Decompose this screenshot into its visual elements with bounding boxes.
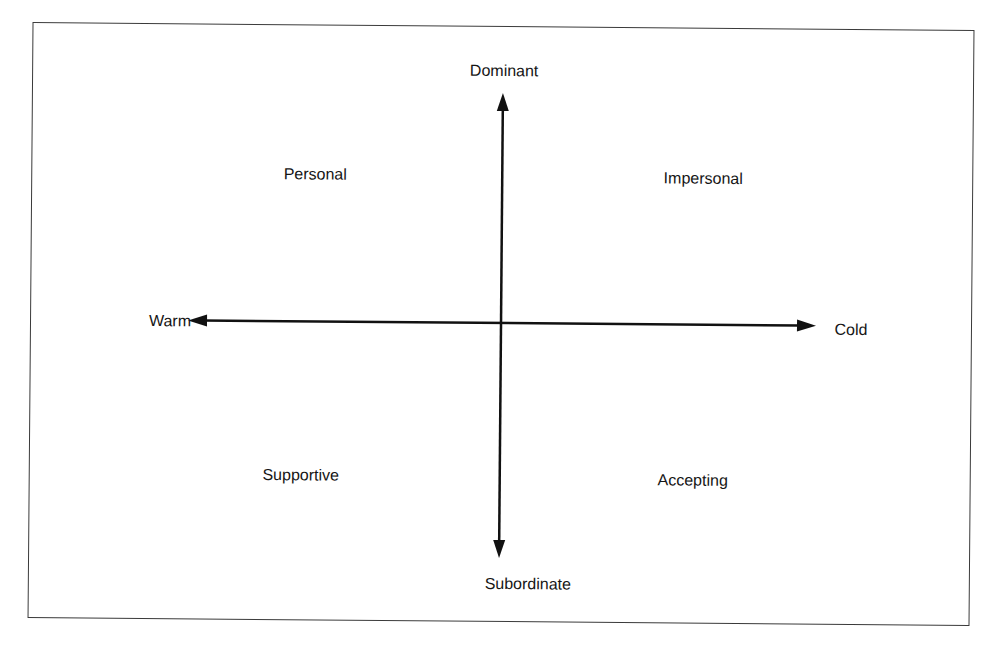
quadrant-label-supportive: Supportive [262,466,339,485]
quadrant-label-accepting: Accepting [657,471,727,490]
vertical-axis [493,93,509,558]
axis-label-cold: Cold [834,321,867,339]
arrow-up-icon [497,93,509,111]
arrow-right-icon [797,319,816,331]
axis-label-subordinate: Subordinate [485,575,571,594]
axis-label-warm: Warm [149,312,191,330]
diagram-canvas: Dominant Subordinate Warm Cold Personal … [0,0,999,651]
arrow-down-icon [493,540,505,558]
quadrant-label-impersonal: Impersonal [664,169,743,188]
quadrant-label-personal: Personal [284,165,347,184]
axis-label-dominant: Dominant [470,62,539,81]
